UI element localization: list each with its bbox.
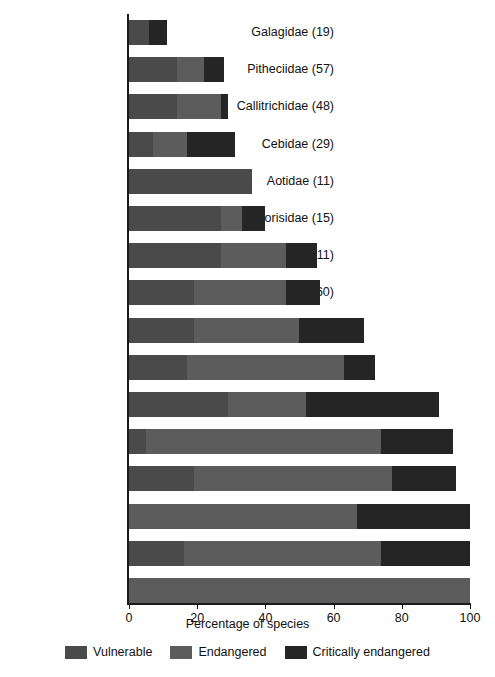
x-tick-mark	[402, 603, 403, 609]
legend-swatch	[170, 646, 192, 659]
bar-segment[interactable]	[146, 429, 381, 454]
bar-segment[interactable]	[129, 392, 228, 417]
bar-stack[interactable]	[129, 466, 456, 491]
bar-segment[interactable]	[129, 504, 357, 529]
bar-row: Aotidae (11)	[129, 169, 470, 194]
chart-legend: VulnerableEndangeredCritically endangere…	[0, 645, 495, 659]
bar-row: Callitrichidae (48)	[129, 94, 470, 119]
bar-segment[interactable]	[129, 132, 153, 157]
bar-segment[interactable]	[286, 243, 317, 268]
bar-row: Cercopithecidae (160)	[129, 280, 470, 305]
bar-stack[interactable]	[129, 392, 439, 417]
bar-segment[interactable]	[129, 57, 177, 82]
bar-segment[interactable]	[392, 466, 457, 491]
x-tick-mark	[197, 603, 198, 609]
bar-row: Lorisidae (15)	[129, 206, 470, 231]
bar-segment[interactable]	[187, 132, 235, 157]
bar-segment[interactable]	[129, 541, 184, 566]
bar-stack[interactable]	[129, 132, 235, 157]
x-axis-title: Percentage of species	[0, 617, 495, 631]
bar-segment[interactable]	[187, 355, 344, 380]
x-tick-mark	[470, 603, 471, 609]
bar-segment[interactable]	[129, 280, 194, 305]
plot-area: 020406080100 Galagidae (19)Pitheciidae (…	[129, 14, 470, 603]
legend-swatch	[65, 646, 87, 659]
bar-segment[interactable]	[357, 504, 470, 529]
bar-stack[interactable]	[129, 578, 470, 603]
legend-item[interactable]: Endangered	[170, 645, 266, 659]
bar-segment[interactable]	[184, 541, 382, 566]
bar-segment[interactable]	[221, 243, 286, 268]
bar-stack[interactable]	[129, 541, 470, 566]
bar-row: Indriidae (19)	[129, 541, 470, 566]
bar-segment[interactable]	[242, 206, 266, 231]
bar-segment[interactable]	[344, 355, 375, 380]
bar-stack[interactable]	[129, 169, 252, 194]
bar-segment[interactable]	[129, 355, 187, 380]
legend-label: Vulnerable	[93, 645, 152, 659]
stacked-bar-chart: 020406080100 Galagidae (19)Pitheciidae (…	[0, 0, 495, 677]
bar-row: Hylobatidae (19)	[129, 429, 470, 454]
bar-row: Galagidae (19)	[129, 20, 470, 45]
bar-segment[interactable]	[194, 466, 392, 491]
bar-segment[interactable]	[129, 429, 146, 454]
bar-stack[interactable]	[129, 206, 265, 231]
bar-row: Pitheciidae (57)	[129, 57, 470, 82]
bar-stack[interactable]	[129, 94, 228, 119]
legend-item[interactable]: Critically endangered	[285, 645, 430, 659]
bar-segment[interactable]	[129, 20, 149, 45]
bar-stack[interactable]	[129, 280, 320, 305]
x-tick-mark	[334, 603, 335, 609]
bar-row: Cebidae (29)	[129, 132, 470, 157]
bar-segment[interactable]	[129, 94, 177, 119]
bar-row: Lepilemuridae (26)	[129, 466, 470, 491]
bar-segment[interactable]	[194, 280, 286, 305]
bar-segment[interactable]	[381, 429, 453, 454]
bar-segment[interactable]	[129, 578, 470, 603]
x-axis-line	[127, 603, 470, 605]
bar-segment[interactable]	[129, 206, 221, 231]
bar-stack[interactable]	[129, 243, 317, 268]
bar-segment[interactable]	[129, 169, 252, 194]
legend-label: Endangered	[198, 645, 266, 659]
bar-segment[interactable]	[221, 94, 228, 119]
legend-label: Critically endangered	[313, 645, 430, 659]
bar-stack[interactable]	[129, 318, 364, 343]
bar-segment[interactable]	[228, 392, 306, 417]
legend-swatch	[285, 646, 307, 659]
bar-segment[interactable]	[299, 318, 364, 343]
bar-row: Tarsiidae (11)	[129, 243, 470, 268]
bar-row: Cheirogaleidae (36)	[129, 355, 470, 380]
bar-segment[interactable]	[153, 132, 187, 157]
bar-segment[interactable]	[194, 318, 300, 343]
bar-stack[interactable]	[129, 504, 470, 529]
bar-segment[interactable]	[177, 94, 221, 119]
bar-stack[interactable]	[129, 429, 453, 454]
bar-row: Atelidae (26)	[129, 318, 470, 343]
bar-segment[interactable]	[286, 280, 320, 305]
bar-row: Lemuridae (21)	[129, 392, 470, 417]
legend-item[interactable]: Vulnerable	[65, 645, 152, 659]
x-tick-mark	[129, 603, 130, 609]
bar-row: Hominidae (6)	[129, 504, 470, 529]
bar-row: Daubentoniidae (1)	[129, 578, 470, 603]
bar-segment[interactable]	[177, 57, 204, 82]
bar-segment[interactable]	[129, 243, 221, 268]
bar-segment[interactable]	[129, 466, 194, 491]
bar-segment[interactable]	[149, 20, 166, 45]
x-tick-mark	[265, 603, 266, 609]
bar-stack[interactable]	[129, 355, 375, 380]
bar-stack[interactable]	[129, 57, 224, 82]
bar-segment[interactable]	[221, 206, 241, 231]
bar-stack[interactable]	[129, 20, 167, 45]
bar-segment[interactable]	[381, 541, 470, 566]
bar-segment[interactable]	[129, 318, 194, 343]
bar-segment[interactable]	[204, 57, 224, 82]
bar-segment[interactable]	[306, 392, 439, 417]
